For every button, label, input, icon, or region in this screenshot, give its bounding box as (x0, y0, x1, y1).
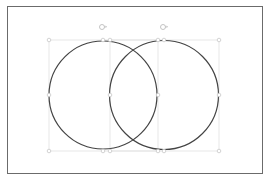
resize-handle[interactable] (162, 149, 166, 153)
resize-handle[interactable] (47, 38, 51, 42)
resize-handle[interactable] (108, 93, 112, 97)
resize-handle[interactable] (108, 38, 112, 42)
resize-handle[interactable] (217, 93, 221, 97)
resize-handle[interactable] (156, 93, 160, 97)
resize-handle[interactable] (217, 38, 221, 42)
shapes-layer (0, 0, 271, 182)
rotate-handle-icon[interactable] (161, 25, 168, 30)
resize-handle[interactable] (101, 38, 105, 42)
left-circle[interactable] (49, 41, 157, 149)
resize-handle[interactable] (108, 149, 112, 153)
rotate-handle-icon[interactable] (100, 25, 107, 30)
resize-handle[interactable] (156, 38, 160, 42)
resize-handle[interactable] (47, 93, 51, 97)
right-circle[interactable] (110, 41, 219, 150)
resize-handle[interactable] (217, 149, 221, 153)
resize-handle[interactable] (156, 149, 160, 153)
resize-handle[interactable] (162, 38, 166, 42)
resize-handle[interactable] (47, 149, 51, 153)
resize-handle[interactable] (101, 149, 105, 153)
